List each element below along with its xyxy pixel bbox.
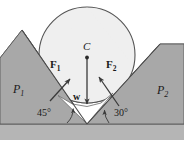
figure-canvas — [0, 0, 184, 145]
center-point — [85, 56, 89, 60]
ground-slab — [0, 123, 184, 140]
physics-figure: C F1 F2 w 45° 30° P1 P2 — [0, 0, 184, 145]
